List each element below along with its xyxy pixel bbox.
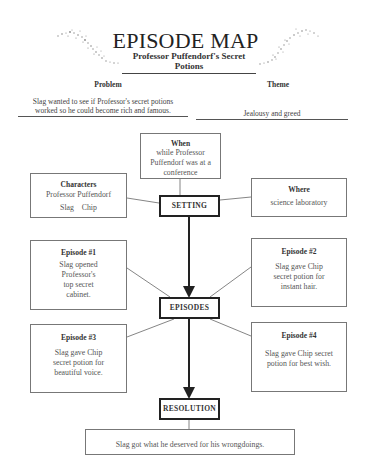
episode-4-box[interactable]: Episode #4 Slag gave Chip secret potion … [251,322,347,392]
theme-field[interactable]: Jealousy and greed [196,109,348,120]
episode-1-line-1: Slag opened [31,260,126,270]
problem-line-2: worked so he could become rich and famou… [18,106,188,115]
episode-3-line-3: beautiful voice. [31,368,126,378]
resolution-hub: RESOLUTION [159,398,220,420]
where-box[interactable]: Where science laboratory [251,178,347,217]
episode-4-heading: Episode #4 [252,331,346,340]
episodes-hub: EPISODES [159,297,220,319]
where-heading: Where [252,185,346,194]
where-line-1: science laboratory [252,198,346,208]
episode-3-line-1: Slag gave Chip [31,348,126,358]
setting-hub: SETTING [159,195,220,217]
when-line-2: Puffendorf was at a [141,158,220,168]
episode-2-heading: Episode #2 [252,247,346,256]
characters-line-2: Slag Chip [31,203,126,213]
theme-label: Theme [248,80,308,89]
resolution-text: Slag got what he deserved for his wrongd… [116,440,265,449]
problem-line-1: Slag wanted to see if Professor's secret… [18,97,188,106]
episode-3-line-2: secret potion for [31,358,126,368]
characters-box[interactable]: Characters Professor Puffendorf Slag Chi… [30,173,127,218]
episode-1-line-4: cabinet. [31,290,126,300]
episode-1-line-3: top secret [31,280,126,290]
episode-4-line-1: Slag gave Chip secret [252,349,346,359]
story-title: Professor Puffendorf's Secret Potions [122,51,256,74]
when-box[interactable]: When while Professor Puffendorf was at a… [140,133,221,179]
episode-1-box[interactable]: Episode #1 Slag opened Professor's top s… [30,240,127,310]
when-line-3: conference [141,168,220,178]
episode-2-line-2: secret potion for [252,272,346,282]
theme-text: Jealousy and greed [196,109,348,118]
resolution-box[interactable]: Slag got what he deserved for his wrongd… [85,429,295,455]
episode-3-heading: Episode #3 [31,333,126,342]
when-line-1: while Professor [141,148,220,158]
episode-2-box[interactable]: Episode #2 Slag gave Chip secret potion … [251,238,347,307]
episode-2-line-3: instant hair. [252,282,346,292]
characters-line-1: Professor Puffendorf [31,190,126,200]
episode-3-box[interactable]: Episode #3 Slag gave Chip secret potion … [30,324,127,393]
episode-2-line-1: Slag gave Chip [252,262,346,272]
problem-label: Problem [78,80,138,89]
characters-heading: Characters [31,180,126,189]
when-heading: When [141,139,220,148]
problem-field[interactable]: Slag wanted to see if Professor's secret… [18,97,188,117]
episode-4-line-2: potion for best wish. [252,359,346,369]
episode-1-line-2: Professor's [31,270,126,280]
episode-1-heading: Episode #1 [31,248,126,257]
